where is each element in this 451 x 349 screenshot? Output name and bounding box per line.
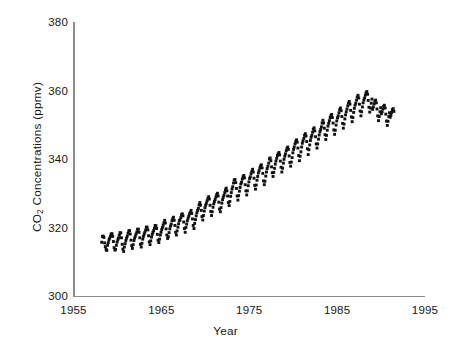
series-markers — [100, 90, 395, 253]
data-series-plot — [0, 0, 451, 349]
co2-concentration-chart: 380 360 340 320 300 1955 1965 1975 1985 … — [0, 0, 451, 349]
